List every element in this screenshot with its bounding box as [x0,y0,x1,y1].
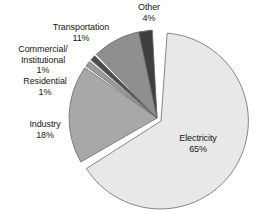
pie-chart: Other 4% Transportation 11% Commercial/ … [0,0,262,219]
pie-label-electricity-name: Electricity [166,133,230,144]
pie-label-transportation-percent: 11% [38,33,124,44]
pie-label-industry-percent: 18% [14,130,76,141]
pie-label-residential-name: Residential [10,76,80,87]
pie-label-other-name: Other [122,2,176,13]
pie-label-electricity-percent: 65% [166,144,230,155]
pie-label-transportation-name: Transportation [38,22,124,33]
pie-label-electricity: Electricity 65% [166,133,230,154]
pie-label-residential: Residential 1% [10,76,80,97]
pie-label-transportation: Transportation 11% [38,22,124,43]
pie-label-industry-name: Industry [14,119,76,130]
pie-label-other-percent: 4% [122,13,176,24]
pie-label-industry: Industry 18% [14,119,76,140]
pie-label-commercial-line1: Commercial/ [2,44,84,55]
pie-label-residential-percent: 1% [10,87,80,98]
pie-label-commercial-line2: Institutional [2,55,84,66]
pie-label-commercial-percent: 1% [2,65,84,76]
pie-label-commercial-institutional: Commercial/ Institutional 1% [2,44,84,76]
pie-label-other: Other 4% [122,2,176,23]
